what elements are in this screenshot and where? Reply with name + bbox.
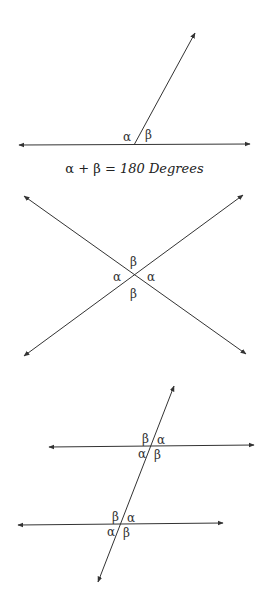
upper-beta-tl: β — [142, 433, 149, 445]
caption-lhs: α + β = — [65, 161, 120, 176]
alpha-right-label: α — [147, 271, 155, 283]
upper-alpha-bl: α — [138, 448, 146, 460]
alpha-label: α — [123, 131, 131, 143]
upper-alpha-tr: α — [157, 434, 165, 446]
beta-top-label: β — [130, 256, 137, 268]
upper-beta-br: β — [154, 449, 161, 461]
alpha-left-label: α — [113, 271, 121, 283]
caption-rhs: 180 Degrees — [120, 161, 204, 176]
lower-alpha-bl: α — [107, 526, 115, 538]
lower-beta-tl: β — [112, 511, 119, 523]
lower-alpha-tr: α — [127, 512, 135, 524]
lower-beta-br: β — [123, 527, 130, 539]
beta-bottom-label: β — [130, 288, 137, 300]
beta-label: β — [145, 129, 152, 141]
transversal — [98, 386, 174, 582]
caption: α + β = 180 Degrees — [0, 161, 269, 176]
ray — [134, 33, 195, 145]
